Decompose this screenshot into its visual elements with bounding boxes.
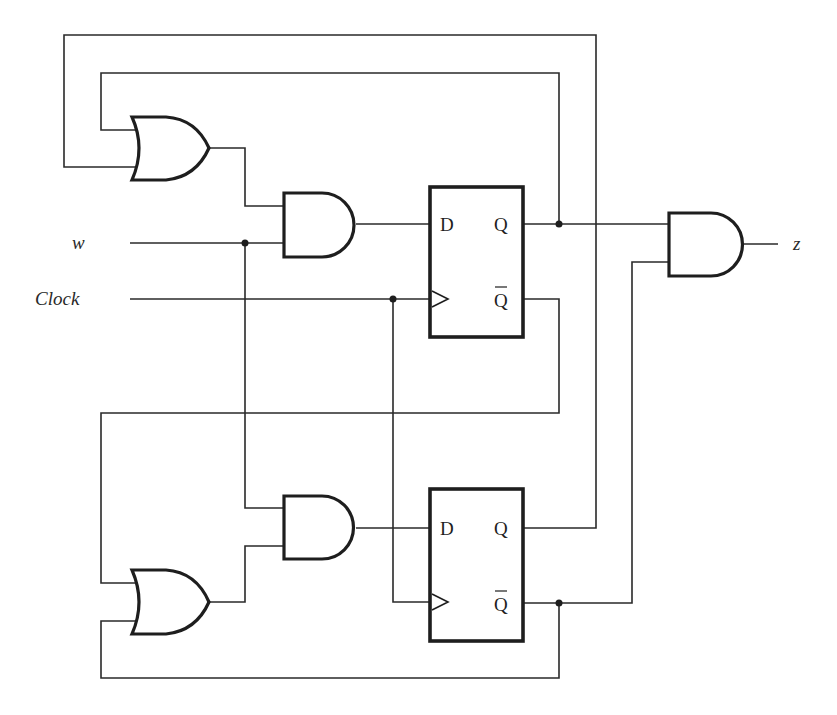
ff2-q-label: Q bbox=[494, 518, 508, 539]
ff1-q-label: Q bbox=[494, 214, 508, 235]
and-gate-2 bbox=[284, 496, 354, 559]
wire-ff2-qbar-to-and3 bbox=[524, 262, 670, 603]
junction-ff2-qbar bbox=[556, 600, 563, 607]
ff2-body bbox=[430, 489, 523, 641]
junction-ff1-q bbox=[556, 221, 563, 228]
and-gate-3 bbox=[669, 213, 743, 276]
flip-flop-1: D Q Q bbox=[430, 187, 523, 337]
input-label-w: w bbox=[72, 232, 85, 253]
wire-or2-to-and2 bbox=[210, 546, 285, 602]
wire-clock-to-ff2 bbox=[393, 299, 431, 602]
input-label-clock: Clock bbox=[35, 288, 80, 309]
ff2-d-label: D bbox=[440, 518, 454, 539]
and-gate-1 bbox=[284, 193, 354, 257]
wire-or1-to-and1 bbox=[210, 148, 285, 206]
flip-flop-2: D Q Q bbox=[430, 489, 523, 641]
junction-w bbox=[242, 240, 249, 247]
ff1-d-label: D bbox=[440, 214, 454, 235]
ff1-body bbox=[430, 187, 523, 337]
or-gate-2 bbox=[132, 570, 209, 634]
wire-w-to-and2 bbox=[245, 243, 285, 508]
ff2-qbar-label: Q bbox=[494, 594, 508, 615]
circuit-diagram: D Q Q D Q Q w Clock z bbox=[0, 0, 837, 715]
output-label-z: z bbox=[792, 233, 801, 254]
junction-clock bbox=[390, 296, 397, 303]
or-gate-1 bbox=[132, 117, 209, 180]
ff1-qbar-label: Q bbox=[494, 290, 508, 311]
